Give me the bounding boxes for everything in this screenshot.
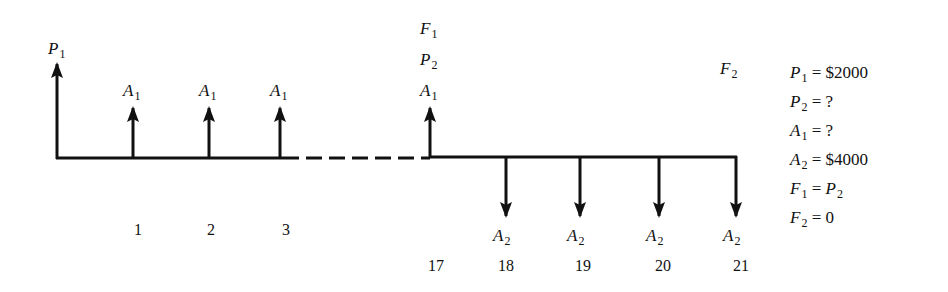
given-a1: A1 = ? xyxy=(790,119,868,148)
label-a2-period-20: A2 xyxy=(646,227,663,247)
given-p1: P1 = $2000 xyxy=(790,61,868,90)
label-p1: P1 xyxy=(48,40,65,60)
upward-arrows xyxy=(51,62,436,159)
given-a2: A2 = $4000 xyxy=(790,148,868,177)
period-20: 20 xyxy=(655,258,671,274)
period-2: 2 xyxy=(207,222,215,238)
given-p2: P2 = ? xyxy=(790,90,868,119)
period-17: 17 xyxy=(428,258,444,274)
label-a1-period-2: A1 xyxy=(199,82,216,102)
given-f2: F2 = 0 xyxy=(790,206,868,235)
label-a2-period-21: A2 xyxy=(723,227,740,247)
label-a1-period-17: A1 xyxy=(420,82,437,102)
label-f1: F1 xyxy=(420,20,437,40)
given-values: P1 = $2000 P2 = ? A1 = ? A2 = $4000 F1 =… xyxy=(790,61,868,235)
period-21: 21 xyxy=(733,258,749,274)
period-19: 19 xyxy=(575,258,591,274)
label-p2: P2 xyxy=(420,51,437,71)
given-f1: F1 = P2 xyxy=(790,177,868,206)
label-f2: F2 xyxy=(720,60,737,80)
label-a2-period-19: A2 xyxy=(567,227,584,247)
period-18: 18 xyxy=(498,258,514,274)
label-a2-period-18: A2 xyxy=(493,227,510,247)
period-3: 3 xyxy=(282,222,290,238)
label-a1-period-3: A1 xyxy=(270,82,287,102)
downward-arrows xyxy=(500,156,742,218)
period-1: 1 xyxy=(134,222,142,238)
label-a1-period-1: A1 xyxy=(123,82,140,102)
